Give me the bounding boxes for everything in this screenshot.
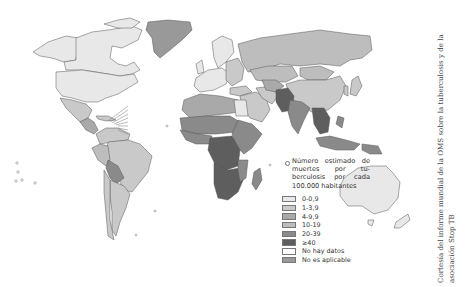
region-southeast-asia [312, 108, 330, 134]
legend-item: 1-3,9 [282, 204, 412, 213]
island-marker [21, 179, 23, 181]
region-russia [238, 30, 372, 72]
legend-item: 10-19 [282, 221, 412, 230]
legend-swatch [282, 205, 296, 212]
legend-swatch [282, 196, 296, 203]
legend-label: 1-3,9 [302, 204, 319, 212]
region-central-africa [208, 136, 240, 170]
region-philippines [336, 116, 344, 128]
island-marker [16, 162, 18, 164]
region-japan [350, 76, 362, 96]
region-kazakhstan [250, 66, 298, 82]
legend-swatch [282, 257, 296, 264]
legend-item: 20-39 [282, 230, 412, 239]
region-central-america [80, 118, 98, 134]
legend-swatch [282, 231, 296, 238]
island-marker [135, 234, 137, 236]
legend-swatch [282, 222, 296, 229]
island-marker [17, 171, 19, 173]
region-north-africa [182, 94, 240, 118]
legend-label: No hay datos [302, 247, 344, 255]
legend-swatch [282, 248, 296, 255]
region-sahel [180, 116, 240, 134]
region-indonesia [316, 136, 360, 150]
legend-title: Número estimado de muertes por tu- bercu… [292, 157, 370, 190]
region-eastern-europe [226, 58, 244, 86]
legend-item: No hay datos [282, 247, 412, 256]
legend-items: 0-0,9 1-3,9 4-9,9 10-19 20-39 ≥40 No hay… [282, 195, 412, 265]
legend-swatch [282, 213, 296, 220]
legend-item: ≥40 [282, 238, 412, 247]
legend-label: 20-39 [302, 230, 321, 238]
region-mozambique [238, 160, 248, 182]
region-alaska [33, 36, 78, 62]
credit-caption: Cortesía del informe mundial de la OMS s… [436, 3, 457, 283]
legend-label: 0-0,9 [302, 195, 319, 203]
legend-item: No es aplicable [282, 256, 412, 265]
legend-label: 10-19 [302, 221, 321, 229]
island-marker [154, 210, 156, 212]
region-korea [344, 86, 348, 96]
island-marker [34, 182, 36, 184]
island-marker [166, 125, 168, 127]
region-greenland [146, 20, 192, 58]
legend-label: ≥40 [302, 239, 316, 247]
island-marker [269, 164, 271, 166]
island-marker [15, 180, 17, 182]
legend-item: 4-9,9 [282, 212, 412, 221]
legend-item: 0-0,9 [282, 195, 412, 204]
region-mongolia [300, 66, 334, 80]
region-papua-new-guinea [362, 144, 382, 154]
legend-swatch [282, 239, 296, 246]
map-legend: Número estimado de muertes por tu- bercu… [282, 157, 412, 264]
region-madagascar [252, 168, 262, 190]
region-uk [196, 60, 204, 74]
legend-label: 4-9,9 [302, 213, 319, 221]
region-canada-islands [104, 18, 140, 28]
legend-label: No es aplicable [302, 256, 351, 264]
region-egypt [234, 100, 248, 116]
